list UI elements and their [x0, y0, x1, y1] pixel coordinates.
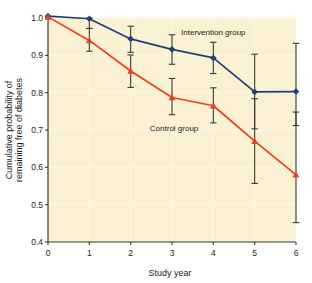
- x-tick-label: 6: [294, 248, 299, 258]
- y-axis-title-line1: Cumulative probability of: [4, 80, 14, 179]
- x-tick-label: 3: [170, 248, 175, 258]
- x-tick-label: 1: [87, 248, 92, 258]
- y-tick-label: 0.5: [31, 200, 43, 210]
- y-tick-label: 0.8: [31, 88, 43, 98]
- y-tick-label: 0.6: [31, 162, 43, 172]
- series-label-control: Control group: [150, 124, 199, 133]
- y-tick-label: 0.4: [31, 237, 43, 247]
- y-tick-label: 1.0: [31, 13, 43, 23]
- y-axis-title-line2: remaining free of diabetes: [14, 77, 24, 182]
- x-tick-label: 4: [211, 248, 216, 258]
- chart-container: 0.40.50.60.70.80.91.0 0123456 Interventi…: [0, 0, 312, 283]
- x-tick-label: 0: [46, 248, 51, 258]
- x-tick-label: 5: [252, 248, 257, 258]
- y-tick-label: 0.7: [31, 125, 43, 135]
- x-axis-title: Study year: [148, 268, 191, 278]
- cumulative-probability-line-chart: 0.40.50.60.70.80.91.0 0123456 Interventi…: [0, 0, 312, 283]
- series-label-intervention: Intervention group: [181, 28, 246, 37]
- x-tick-label: 2: [128, 248, 133, 258]
- y-tick-label: 0.9: [31, 50, 43, 60]
